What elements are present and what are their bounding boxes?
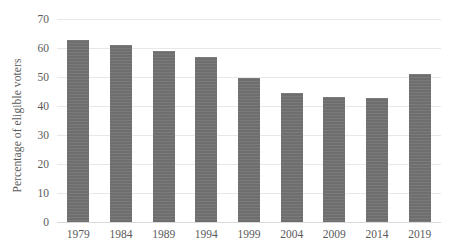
bar[interactable] <box>281 93 303 222</box>
y-axis-tick-label: 50 <box>9 71 49 83</box>
y-axis-tick-label: 40 <box>9 100 49 112</box>
bar[interactable] <box>238 78 260 222</box>
bar[interactable] <box>409 74 431 222</box>
plot-area <box>57 19 441 222</box>
bar[interactable] <box>323 97 345 222</box>
bar-slot <box>313 19 356 222</box>
gridline <box>57 222 441 223</box>
bar[interactable] <box>366 98 388 222</box>
x-axis-tick-label: 2019 <box>390 228 450 240</box>
bar-slot <box>57 19 100 222</box>
y-axis-tick-label: 20 <box>9 158 49 170</box>
bar-slot <box>185 19 228 222</box>
y-axis-title: Percentage of eligible voters <box>0 0 34 251</box>
y-axis-tick-label: 70 <box>9 13 49 25</box>
bar[interactable] <box>195 57 217 222</box>
bar[interactable] <box>110 45 132 222</box>
bar[interactable] <box>67 40 89 222</box>
bar-slot <box>356 19 399 222</box>
y-axis-tick-label: 10 <box>9 187 49 199</box>
y-axis-tick-label: 60 <box>9 42 49 54</box>
bar[interactable] <box>153 51 175 222</box>
bars-layer <box>57 19 441 222</box>
bar-chart-figure: Percentage of eligible voters 0102030405… <box>0 0 455 251</box>
bar-slot <box>100 19 143 222</box>
y-axis-tick-label: 0 <box>9 216 49 228</box>
bar-slot <box>142 19 185 222</box>
y-axis-tick-label: 30 <box>9 129 49 141</box>
bar-slot <box>228 19 271 222</box>
bar-slot <box>398 19 441 222</box>
bar-slot <box>270 19 313 222</box>
